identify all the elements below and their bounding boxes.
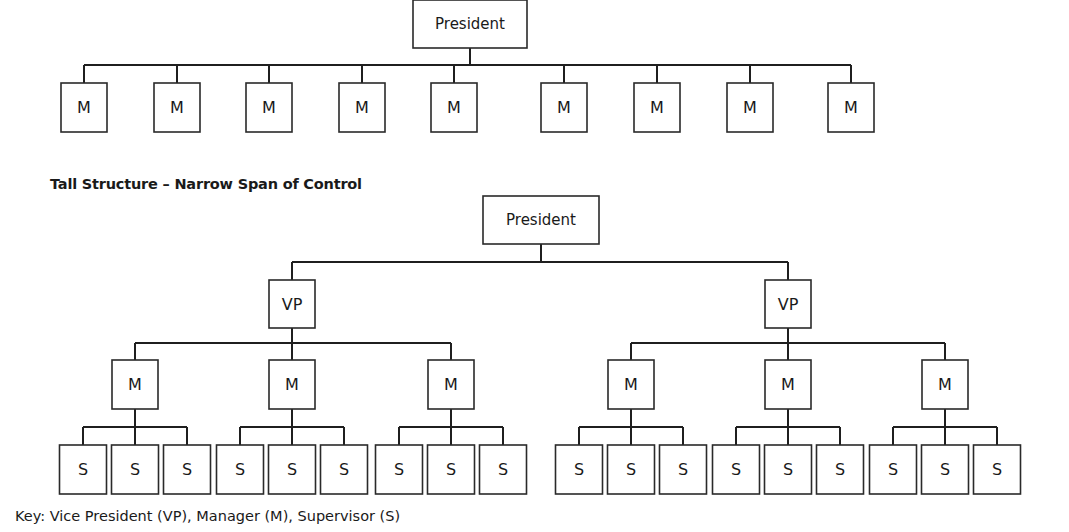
vice-president-2: VP [765, 280, 811, 328]
supervisor-2-3-2-label: S [940, 460, 950, 479]
flat-manager-7-label: M [650, 98, 664, 117]
flat-manager-5-label: M [447, 98, 461, 117]
supervisor-2-2-3-label: S [835, 460, 845, 479]
vice-president-1-label: VP [282, 295, 303, 314]
supervisor-2-3-3-label: S [992, 460, 1002, 479]
supervisor-2-3-1: S [870, 445, 917, 494]
supervisor-2-2-3: S [817, 445, 864, 494]
manager-1-1: M [112, 360, 158, 409]
supervisor-1-2-2-label: S [287, 460, 297, 479]
flat-manager-3-label: M [262, 98, 276, 117]
flat-manager-8-label: M [743, 98, 757, 117]
org-chart-canvas: MMMMMMMMMPresidentSSSMSSSMSSSMVPSSSMSSSM… [0, 0, 1069, 532]
flat-manager-2-label: M [170, 98, 184, 117]
manager-1-2-label: M [285, 375, 299, 394]
flat-manager-8: M [727, 83, 773, 132]
manager-2-3-label: M [938, 375, 952, 394]
supervisor-1-1-3: S [164, 445, 211, 494]
supervisor-1-1-1: S [60, 445, 107, 494]
supervisor-1-2-3-label: S [339, 460, 349, 479]
vice-president-1: VP [269, 280, 315, 328]
manager-1-3-label: M [444, 375, 458, 394]
flat-manager-6: M [541, 83, 587, 132]
supervisor-2-1-2-label: S [626, 460, 636, 479]
supervisor-2-2-2-label: S [783, 460, 793, 479]
manager-1-1-label: M [128, 375, 142, 394]
supervisor-2-1-2: S [608, 445, 655, 494]
flat-manager-6-label: M [557, 98, 571, 117]
supervisor-1-2-2: S [269, 445, 316, 494]
supervisor-1-2-1-label: S [235, 460, 245, 479]
manager-2-2: M [765, 360, 811, 409]
flat-president-label: President [435, 15, 505, 33]
supervisor-1-1-3-label: S [182, 460, 192, 479]
supervisor-1-3-3: S [480, 445, 527, 494]
flat-manager-4: M [339, 83, 385, 132]
tall-president: President [483, 196, 599, 244]
flat-manager-3: M [246, 83, 292, 132]
supervisor-2-1-1-label: S [574, 460, 584, 479]
tall-president-label: President [506, 211, 576, 229]
supervisor-2-1-3-label: S [678, 460, 688, 479]
flat-manager-1: M [61, 83, 107, 132]
flat-manager-5: M [431, 83, 477, 132]
supervisor-1-3-2-label: S [446, 460, 456, 479]
flat-manager-9-label: M [844, 98, 858, 117]
supervisor-1-3-1: S [376, 445, 423, 494]
supervisor-1-3-2: S [428, 445, 475, 494]
supervisor-1-1-2: S [112, 445, 159, 494]
flat-manager-1-label: M [77, 98, 91, 117]
manager-2-1-label: M [624, 375, 638, 394]
supervisor-1-1-1-label: S [78, 460, 88, 479]
manager-1-3: M [428, 360, 474, 409]
supervisor-2-2-1: S [713, 445, 760, 494]
supervisor-1-2-3: S [321, 445, 368, 494]
supervisor-2-1-3: S [660, 445, 707, 494]
flat-manager-4-label: M [355, 98, 369, 117]
manager-2-2-label: M [781, 375, 795, 394]
legend-key: Key: Vice President (VP), Manager (M), S… [15, 508, 400, 524]
flat-president: President [413, 0, 527, 48]
supervisor-2-1-1: S [556, 445, 603, 494]
supervisor-2-3-3: S [974, 445, 1021, 494]
manager-1-2: M [269, 360, 315, 409]
supervisor-1-3-3-label: S [498, 460, 508, 479]
supervisor-2-3-2: S [922, 445, 969, 494]
supervisor-1-1-2-label: S [130, 460, 140, 479]
supervisor-1-2-1: S [217, 445, 264, 494]
manager-2-1: M [608, 360, 654, 409]
flat-manager-7: M [634, 83, 680, 132]
manager-2-3: M [922, 360, 968, 409]
supervisor-2-3-1-label: S [888, 460, 898, 479]
vice-president-2-label: VP [778, 295, 799, 314]
flat-manager-9: M [828, 83, 874, 132]
tall-structure-heading: Tall Structure – Narrow Span of Control [50, 176, 362, 192]
supervisor-2-2-2: S [765, 445, 812, 494]
supervisor-1-3-1-label: S [394, 460, 404, 479]
supervisor-2-2-1-label: S [731, 460, 741, 479]
flat-manager-2: M [154, 83, 200, 132]
